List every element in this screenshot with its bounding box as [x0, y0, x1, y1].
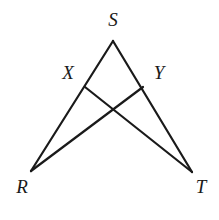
vertex-label-Y: Y — [154, 62, 167, 83]
segment-S-T — [113, 41, 192, 172]
segment-Y-R — [31, 87, 143, 171]
geometry-canvas: S X Y R T — [0, 0, 219, 220]
segment-X-T — [85, 87, 192, 172]
vertex-label-X: X — [61, 62, 75, 83]
vertex-label-S: S — [108, 9, 118, 30]
segment-S-R — [31, 41, 113, 171]
vertex-label-R: R — [15, 176, 28, 197]
geometry-figure: S X Y R T — [0, 0, 219, 220]
vertex-label-T: T — [196, 176, 208, 197]
